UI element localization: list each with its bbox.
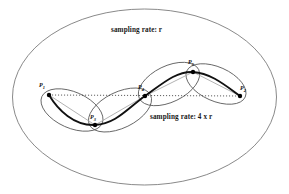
point-label-p4: P4 [138,84,144,92]
point-label-p5-subscript: 5 [192,62,194,67]
point-label-p1: P1 [39,82,45,90]
point-marker-p3 [93,123,97,127]
point-label-p3-subscript: 3 [94,117,96,122]
point-label-p4-subscript: 4 [142,87,144,92]
connector-line-p4-p5 [145,72,193,96]
point-label-p5: P5 [188,59,194,67]
point-label-p2: P2 [240,85,246,93]
inner-sampling-rate-label: sampling rate: 4 x r [150,113,212,121]
point-label-p1-subscript: 1 [43,85,45,90]
point-marker-p1 [47,93,51,97]
connector-line-p5-p2 [193,72,240,96]
point-marker-p5 [191,70,195,74]
sampling-rate-diagram: sampling rate: r sampling rate: 4 x r P1… [0,0,289,194]
point-marker-p2 [238,94,242,98]
outer-sampling-rate-label: sampling rate: r [111,26,162,34]
connector-line-p1-p3 [49,95,95,125]
point-label-p2-subscript: 2 [244,88,246,93]
point-label-p3: P3 [90,114,96,122]
point-marker-p4 [143,94,147,98]
